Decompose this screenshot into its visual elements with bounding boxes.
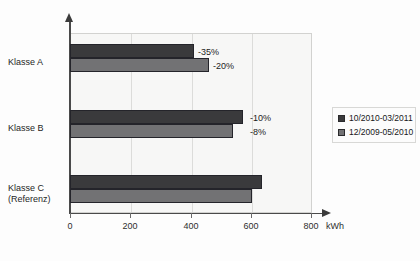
legend-label-series-1: 10/2010-03/2011 xyxy=(349,113,413,123)
bar-klasse-a-series-1 xyxy=(70,44,194,58)
bar-label-klasse-a-series-2: -20% xyxy=(213,61,234,71)
x-tick-800 xyxy=(311,213,312,218)
category-label-klasse-c: Klasse C (Referenz) xyxy=(8,183,68,205)
x-tick-600 xyxy=(251,213,252,218)
x-tick-label-0: 0 xyxy=(50,221,90,231)
legend-label-series-2: 12/2009-05/2010 xyxy=(349,127,413,137)
x-tick-0 xyxy=(70,213,71,218)
legend-item-1[interactable]: 10/2010-03/2011 xyxy=(338,112,411,124)
x-tick-label-400: 400 xyxy=(171,221,211,231)
bar-label-klasse-b-series-1: -10% xyxy=(250,113,271,123)
legend-swatch-icon-series-2 xyxy=(338,129,345,136)
bar-label-klasse-b-series-2: -8% xyxy=(250,127,266,137)
x-tick-label-600: 600 xyxy=(231,221,271,231)
bar-klasse-a-series-2 xyxy=(70,58,209,72)
bar-klasse-b-series-1 xyxy=(70,110,243,124)
category-label-klasse-a: Klasse A xyxy=(8,57,68,68)
bar-klasse-c-series-1 xyxy=(70,175,262,189)
bar-klasse-b-series-2 xyxy=(70,124,233,138)
y-axis-arrow-icon xyxy=(65,13,73,22)
legend-item-2[interactable]: 12/2009-05/2010 xyxy=(338,126,411,138)
x-tick-label-200: 200 xyxy=(110,221,150,231)
bar-label-klasse-a-series-1: -35% xyxy=(198,47,219,57)
legend-swatch-icon-series-1 xyxy=(338,115,345,122)
x-axis-unit-label: kWh xyxy=(326,221,344,231)
x-tick-200 xyxy=(130,213,131,218)
x-tick-400 xyxy=(191,213,192,218)
bar-klasse-c-series-2 xyxy=(70,189,252,203)
bar-chart: 0 200 400 600 800 kWh Klasse A Klasse B … xyxy=(0,0,420,261)
category-label-klasse-c-line2: (Referenz) xyxy=(8,194,68,205)
x-tick-label-800: 800 xyxy=(291,221,331,231)
x-axis-arrow-icon xyxy=(322,209,331,217)
category-label-klasse-c-line1: Klasse C xyxy=(8,183,68,194)
legend: 10/2010-03/2011 12/2009-05/2010 xyxy=(332,107,416,143)
x-axis-line xyxy=(69,213,324,215)
category-label-klasse-b: Klasse B xyxy=(8,123,68,134)
